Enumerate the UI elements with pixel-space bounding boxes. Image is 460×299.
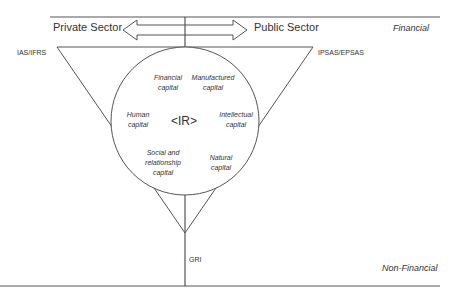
capital-line: capital — [208, 120, 264, 130]
ipsas-epsas-label: IPSAS/EPSAS — [318, 49, 364, 56]
private-sector-label: Private Sector — [53, 21, 122, 33]
public-sector-label: Public Sector — [254, 21, 319, 33]
capital-line: capital — [180, 83, 246, 93]
capital-line: Manufactured — [180, 73, 246, 83]
capital-line: relationship — [130, 158, 196, 168]
social-relationship-capital-label: Social and relationship capital — [130, 148, 196, 178]
human-capital-label: Human capital — [115, 110, 161, 130]
financial-label: Financial — [393, 23, 429, 33]
intellectual-capital-label: Intellectual capital — [208, 110, 264, 130]
capital-line: Social and — [130, 148, 196, 158]
non-financial-label: Non-Financial — [382, 263, 438, 273]
capital-line: Intellectual — [208, 110, 264, 120]
capital-line: Human — [115, 110, 161, 120]
natural-capital-label: Natural capital — [196, 153, 246, 173]
ias-ifrs-label: IAS/IFRS — [17, 49, 46, 56]
capital-line: capital — [196, 163, 246, 173]
ir-center-label: <IR> — [171, 114, 197, 128]
manufactured-capital-label: Manufactured capital — [180, 73, 246, 93]
capital-line: Natural — [196, 153, 246, 163]
capital-line: capital — [130, 168, 196, 178]
gri-label: GRI — [189, 256, 201, 263]
capital-line: capital — [115, 120, 161, 130]
diagram-canvas — [0, 0, 460, 299]
